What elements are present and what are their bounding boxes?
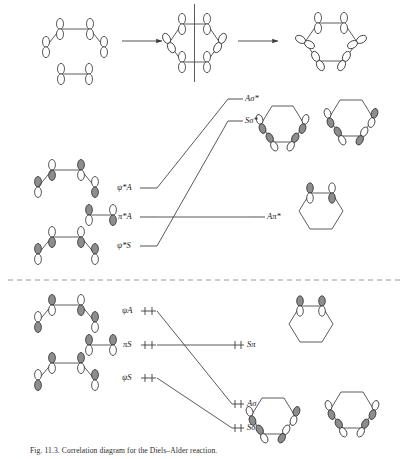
picture-cyclohexene-S-sigma-star (255, 106, 310, 152)
product-cyclohexene-structure (294, 12, 368, 72)
link-psiS-to-Ssigmastar (157, 121, 228, 246)
level-S-sigma (232, 424, 244, 432)
label-A-sigma-star: Aσ* (245, 94, 259, 103)
orbital-correlation-diagram (0, 0, 410, 459)
figure-caption: Fig. 11.3. Correlation diagram for the D… (30, 446, 217, 455)
label-pi-star-A: π*A (118, 212, 132, 221)
label-psi-star-A: ψ*A (117, 183, 132, 192)
label-A-pi-star: Aπ* (267, 212, 281, 221)
level-pi-S (141, 341, 156, 349)
transition-state-structure (161, 4, 228, 82)
reaction-scheme-row (43, 4, 368, 85)
label-S-sigma-star: Sσ* (245, 116, 258, 125)
picture-butadiene-psi-S (35, 353, 99, 391)
picture-butadiene-psi-star-S (35, 227, 99, 265)
figure-canvas: ψ*A π*A ψ*S Aσ* Sσ* Aπ* ψA πS ψS Sπ Aσ S… (0, 0, 410, 459)
level-S-pi (232, 341, 244, 349)
link-psiS-to-Ssigma (157, 378, 232, 428)
label-A-sigma: Aσ (247, 399, 256, 408)
upper-correlation-block (35, 99, 379, 265)
level-psi-S (141, 374, 156, 382)
picture-butadiene-psi-A (35, 295, 99, 333)
label-psi-star-S: ψ*S (117, 241, 131, 250)
level-psi-A (141, 307, 156, 315)
link-psiA-to-Asigmastar (157, 99, 228, 188)
picture-cyclohexene-S-pi (289, 296, 333, 342)
label-S-pi: Sπ (247, 340, 256, 349)
link-psiA-to-Asigma (157, 311, 232, 404)
reactant-orbital-array (43, 18, 108, 84)
label-psi-S: ψS (122, 373, 132, 382)
label-psi-A: ψA (122, 306, 132, 315)
picture-cyclohexene-S-sigma (324, 392, 380, 438)
picture-ethylene-pi (86, 335, 117, 356)
picture-cyclohexene-A-sigma-star (323, 100, 379, 146)
picture-ethylene-pi-star (86, 205, 117, 226)
label-pi-S: πS (123, 340, 132, 349)
level-A-sigma (232, 400, 244, 408)
picture-butadiene-psi-star-A (35, 160, 99, 198)
lower-correlation-block (35, 295, 380, 445)
label-S-sigma: Sσ (247, 423, 255, 432)
picture-cyclohexene-A-pi-star (299, 183, 343, 229)
